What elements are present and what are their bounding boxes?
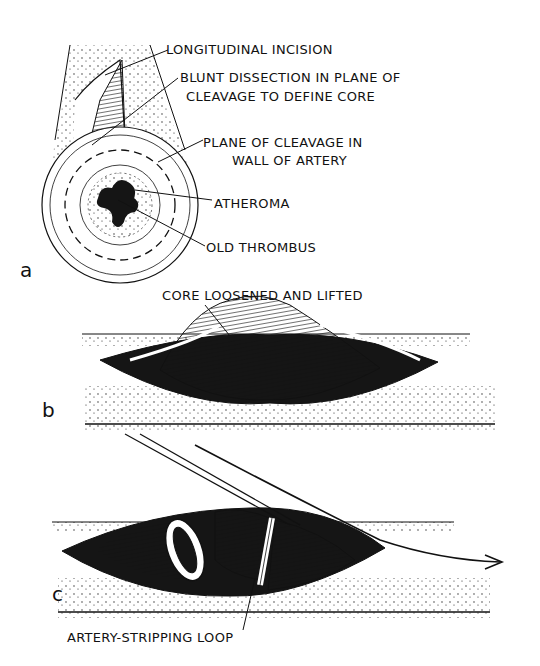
label-blunt-dissection-line1: BLUNT DISSECTION IN PLANE OF	[180, 70, 400, 86]
panel-b-drawing	[82, 296, 495, 432]
label-plane-of-cleavage-line2: WALL OF ARTERY	[232, 153, 347, 169]
panel-c-drawing	[52, 434, 502, 630]
label-plane-of-cleavage-line1: PLANE OF CLEAVAGE IN	[203, 135, 363, 151]
panel-letter-b: b	[42, 398, 55, 422]
label-artery-stripping-loop: ARTERY-STRIPPING LOOP	[67, 630, 233, 646]
label-blunt-dissection-line2: CLEAVAGE TO DEFINE CORE	[186, 89, 375, 105]
label-longitudinal-incision: LONGITUDINAL INCISION	[166, 42, 333, 58]
label-core-loosened-and-lifted: CORE LOOSENED AND LIFTED	[162, 288, 363, 304]
label-old-thrombus: OLD THROMBUS	[206, 240, 316, 256]
label-atheroma: ATHEROMA	[214, 196, 290, 212]
panel-letter-c: c	[52, 582, 63, 606]
panel-letter-a: a	[20, 258, 32, 282]
